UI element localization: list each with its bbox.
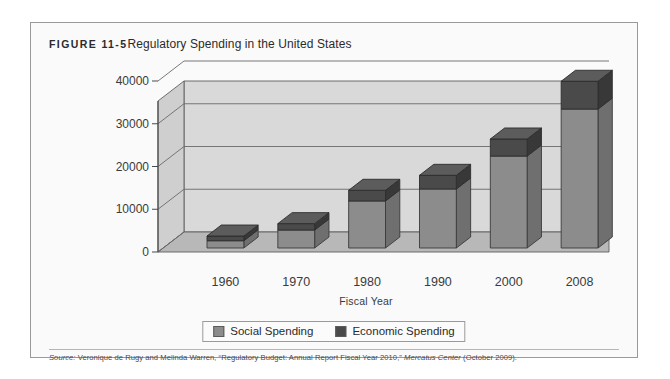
- legend-item: Social Spending: [213, 325, 313, 337]
- y-axis-tick-label: 20000: [116, 160, 149, 174]
- x-axis-tick-label: 2008: [566, 275, 594, 289]
- figure-number-label: FIGURE 11-5: [49, 38, 127, 50]
- y-axis-tick-label: 40000: [116, 74, 149, 88]
- y-axis-tick-label: 0: [142, 245, 149, 259]
- y-axis-tick-label: 30000: [116, 117, 149, 131]
- source-text-1: Veronique de Rugy and Melinda Warren, “R…: [76, 353, 405, 362]
- legend-label: Economic Spending: [352, 325, 454, 337]
- legend-swatch-icon: [335, 326, 346, 337]
- figure-title-text: Regulatory Spending in the United States: [127, 37, 351, 51]
- x-axis-tick-label: 2000: [495, 275, 523, 289]
- source-divider: [49, 349, 619, 350]
- y-axis-tick-labels: 010000200003000040000: [111, 59, 621, 274]
- x-axis-tick-label: 1980: [353, 275, 381, 289]
- figure-title: FIGURE 11-5Regulatory Spending in the Un…: [49, 37, 352, 51]
- legend-item: Economic Spending: [335, 325, 454, 337]
- x-axis-tick-label: 1990: [424, 275, 452, 289]
- y-axis-tick-label: 10000: [116, 202, 149, 216]
- x-axis-title: Fiscal Year: [31, 295, 670, 307]
- legend-swatch-icon: [213, 326, 224, 337]
- source-note: Source: Veronique de Rugy and Melinda Wa…: [49, 353, 625, 362]
- figure-box: FIGURE 11-5Regulatory Spending in the Un…: [30, 22, 638, 358]
- source-label: Source:: [49, 353, 76, 362]
- source-text-2: (October 2009).: [461, 353, 517, 362]
- chart-plot-area: 010000200003000040000: [111, 59, 621, 274]
- source-publication: Mercatus Center: [404, 353, 461, 362]
- chart-legend: Social SpendingEconomic Spending: [202, 321, 465, 342]
- x-axis-tick-label: 1960: [212, 275, 240, 289]
- x-axis-tick-label: 1970: [282, 275, 310, 289]
- screenshot-root: FIGURE 11-5Regulatory Spending in the Un…: [0, 0, 670, 379]
- legend-label: Social Spending: [230, 325, 313, 337]
- x-axis-tick-labels: 196019701980199020002008: [111, 275, 621, 295]
